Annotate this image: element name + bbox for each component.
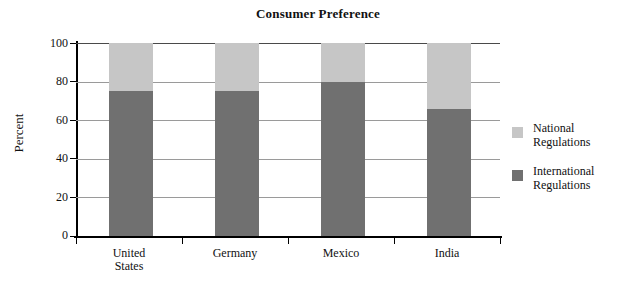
chart-title: Consumer Preference bbox=[0, 6, 636, 22]
bar-group-united-states[interactable] bbox=[109, 43, 153, 236]
legend-item-international-regulations[interactable]: International Regulations bbox=[512, 165, 636, 195]
x-tick-mark-0 bbox=[76, 237, 77, 244]
legend-item-national-regulations[interactable]: National Regulations bbox=[512, 122, 636, 152]
legend-label-line-1: National bbox=[533, 121, 574, 135]
legend-label-national: National Regulations bbox=[533, 122, 636, 149]
x-category-label-germany: Germany bbox=[180, 247, 290, 260]
x-category-line-1: India bbox=[435, 246, 460, 260]
bar-group-germany[interactable] bbox=[215, 43, 259, 236]
x-tick-mark-1 bbox=[182, 237, 183, 244]
chart-container: Consumer Preference 100 80 60 40 20 0 Pe… bbox=[0, 0, 636, 287]
x-category-line-1: United bbox=[113, 246, 146, 260]
y-axis-title: Percent bbox=[11, 93, 27, 173]
y-tick-label-100: 100 bbox=[6, 37, 68, 49]
y-tick-label-80: 80 bbox=[6, 75, 68, 87]
legend-label-line-2: Regulations bbox=[533, 136, 636, 150]
x-category-line-1: Germany bbox=[213, 246, 258, 260]
bar-segment-national[interactable] bbox=[109, 43, 153, 91]
legend-label-international: International Regulations bbox=[533, 165, 636, 192]
x-tick-mark-3 bbox=[394, 237, 395, 244]
bar-segment-international[interactable] bbox=[321, 82, 365, 236]
x-tick-mark-4 bbox=[500, 237, 501, 244]
chart-legend: National Regulations International Regul… bbox=[512, 122, 636, 208]
x-tick-mark-2 bbox=[288, 237, 289, 244]
x-category-label-united-states: United States bbox=[74, 247, 184, 273]
plot-area bbox=[76, 43, 500, 236]
x-category-label-mexico: Mexico bbox=[286, 247, 396, 260]
x-category-line-1: Mexico bbox=[323, 246, 360, 260]
bar-segment-international[interactable] bbox=[109, 91, 153, 236]
x-category-label-india: India bbox=[392, 247, 502, 260]
legend-swatch-national-icon bbox=[512, 127, 523, 138]
bar-group-mexico[interactable] bbox=[321, 43, 365, 236]
bar-segment-national[interactable] bbox=[427, 43, 471, 109]
bar-segment-national[interactable] bbox=[321, 43, 365, 82]
bar-group-india[interactable] bbox=[427, 43, 471, 236]
bar-segment-international[interactable] bbox=[215, 91, 259, 236]
bar-segment-international[interactable] bbox=[427, 109, 471, 236]
legend-label-line-1: International bbox=[533, 164, 594, 178]
y-tick-label-0: 0 bbox=[6, 229, 68, 241]
legend-swatch-international-icon bbox=[512, 170, 523, 181]
x-category-line-2: States bbox=[74, 260, 184, 273]
bar-segment-national[interactable] bbox=[215, 43, 259, 91]
y-tick-label-20: 20 bbox=[6, 191, 68, 203]
legend-label-line-2: Regulations bbox=[533, 179, 636, 193]
